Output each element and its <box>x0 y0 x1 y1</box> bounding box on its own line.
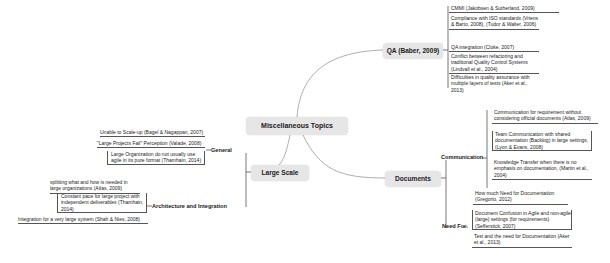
subtopic-need-for[interactable]: Need For <box>442 223 466 229</box>
qa-item-cmmi: CMMI (Jakobsen & Sutherland, 2009) <box>449 5 559 13</box>
topic-qa[interactable]: QA (Baber, 2009) <box>383 43 443 59</box>
general-item-pure-format: Large Organization do not usually use ag… <box>107 151 205 165</box>
arch-item-constant-pace: Constant pace for large project with ind… <box>57 193 147 213</box>
general-item-scale-up: Unable to Scale-up (Bagel & Nagappan, 20… <box>100 129 205 137</box>
comm-item-team: Team Communication with shared documenta… <box>492 131 592 151</box>
comm-item-requirement: Communication for requirement without co… <box>492 109 598 124</box>
qa-item-refactoring: Conflict between refactoring and traditi… <box>449 53 539 74</box>
central-topic[interactable]: Miscellaneous Topics <box>246 117 348 135</box>
subtopic-communication[interactable]: Communication <box>441 154 483 160</box>
arch-item-integration: Integration for a very large system (Sha… <box>18 216 148 224</box>
qa-item-iso: Compliance with ISO standards (Vriens & … <box>449 15 539 30</box>
need-item-how-much: How much Need for Documentation (Gregori… <box>473 190 568 205</box>
need-item-confusion: Document Confusion in Agile and non-agil… <box>472 210 572 230</box>
subtopic-architecture[interactable]: Architecture and Integration <box>152 203 227 209</box>
general-item-perception: "Large Projects Fail" Perception (Valade… <box>97 140 205 148</box>
topic-large-scale[interactable]: Large Scale <box>251 165 309 181</box>
subtopic-general[interactable]: General <box>211 147 232 153</box>
comm-item-knowledge: Knowledge Transfer when there is no emph… <box>492 159 592 180</box>
topic-documents[interactable]: Documents <box>385 171 441 187</box>
qa-item-testing: Difficulties in quality assurance with m… <box>449 74 539 93</box>
arch-item-splitting: splitting what and how is needed in larg… <box>50 179 140 194</box>
qa-item-integration: QA integration (Cloke, 2007) <box>449 44 539 52</box>
need-item-test: Test and the need for Documentation (Ake… <box>472 233 572 248</box>
